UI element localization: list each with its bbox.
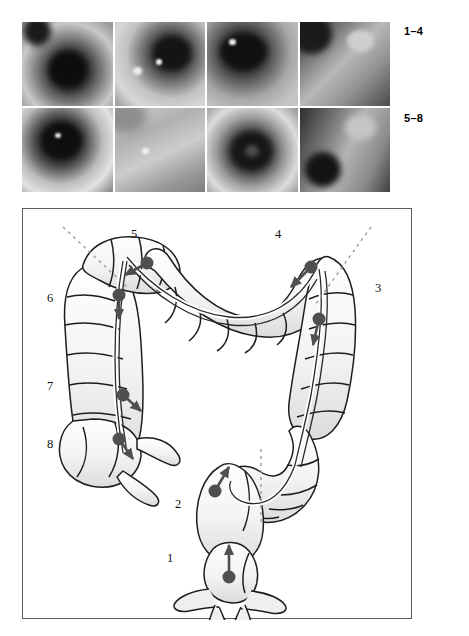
figure-caption: [0, 624, 469, 636]
endoscopy-image-grid: [22, 22, 390, 192]
position-label-7: 7: [47, 379, 53, 394]
colon-diagram: [23, 209, 413, 620]
photo-row-label-top: 1–4: [404, 25, 423, 37]
endoscopy-photo-3: [207, 22, 298, 106]
position-label-2: 2: [175, 497, 181, 512]
position-label-4: 4: [275, 227, 281, 242]
endoscopy-photo-4: [300, 22, 391, 106]
endoscopy-photo-5: [22, 108, 113, 192]
position-label-3: 3: [375, 281, 381, 296]
photo-row-label-bottom: 5–8: [404, 112, 423, 124]
colon-diagram-panel: 5 4 3 6 7 8 2 1: [22, 208, 412, 619]
position-label-5: 5: [131, 227, 137, 242]
position-label-8: 8: [47, 437, 53, 452]
endoscopy-photo-8: [300, 108, 391, 192]
endoscopy-photo-1: [22, 22, 113, 106]
endoscopy-photo-6: [115, 108, 206, 192]
endoscopy-photo-2: [115, 22, 206, 106]
endoscopy-photo-7: [207, 108, 298, 192]
colon-outline: [59, 237, 355, 620]
position-label-1: 1: [167, 551, 173, 566]
position-label-6: 6: [47, 291, 53, 306]
